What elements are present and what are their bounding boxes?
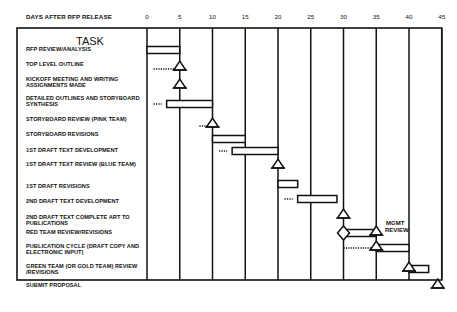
milestone-triangle <box>272 159 284 168</box>
gantt-plot <box>0 0 457 312</box>
milestone-triangle <box>174 61 186 70</box>
milestone-triangle <box>207 118 219 127</box>
task-bar <box>298 196 337 203</box>
milestone-diamond <box>338 226 350 240</box>
chart-frame <box>17 28 442 280</box>
gantt-chart: DAYS AFTER RFP RELEASE 05101520253035404… <box>0 0 457 312</box>
task-bar <box>167 101 213 108</box>
mgmt-review-annotation: MGMT REVIEW <box>386 220 409 233</box>
task-bar <box>232 148 278 155</box>
milestone-triangle <box>338 209 350 218</box>
task-bar <box>278 181 298 188</box>
task-bar <box>147 47 180 54</box>
task-bar <box>213 136 246 143</box>
milestone-triangle <box>174 79 186 88</box>
